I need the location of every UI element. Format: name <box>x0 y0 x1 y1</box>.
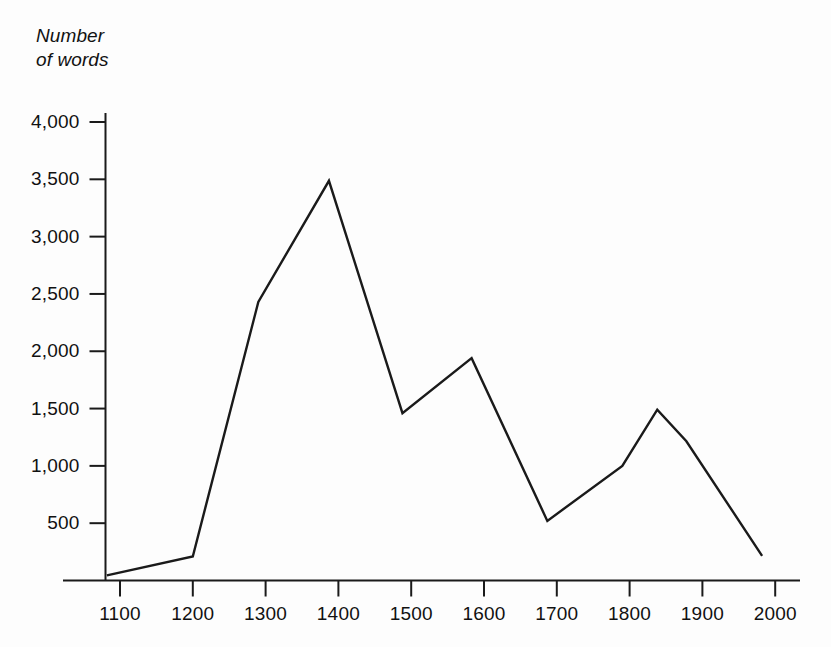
y-axis <box>90 113 106 581</box>
y-axis-tick-label: 3,500 <box>0 168 80 190</box>
x-axis-tick-label: 1400 <box>317 603 360 625</box>
x-axis-tick-label: 1300 <box>244 603 287 625</box>
y-axis-tick-label: 3,000 <box>0 226 80 248</box>
x-axis-tick-label: 2000 <box>754 603 797 625</box>
x-axis-tick-label: 1600 <box>462 603 505 625</box>
y-axis-tick-label: 2,500 <box>0 283 80 305</box>
chart-plot-area <box>0 0 831 647</box>
x-axis <box>63 581 800 597</box>
x-axis-tick-label: 1200 <box>171 603 214 625</box>
x-axis-ticks <box>120 581 775 597</box>
y-axis-ticks <box>90 122 106 523</box>
y-axis-tick-label: 4,000 <box>0 111 80 133</box>
y-axis-tick-label: 1,500 <box>0 398 80 420</box>
x-axis-tick-label: 1800 <box>608 603 651 625</box>
y-axis-tick-label: 1,000 <box>0 455 80 477</box>
x-axis-tick-label: 1100 <box>99 603 141 625</box>
data-line-series-0 <box>107 181 762 576</box>
data-series-group <box>107 181 762 576</box>
x-axis-tick-label: 1900 <box>681 603 724 625</box>
x-axis-tick-label: 1500 <box>390 603 433 625</box>
x-axis-tick-label: 1700 <box>535 603 578 625</box>
y-axis-tick-label: 500 <box>0 512 80 534</box>
line-chart: Number of words 4,0003,5003,0002,5002,00… <box>0 0 831 647</box>
y-axis-tick-label: 2,000 <box>0 340 80 362</box>
